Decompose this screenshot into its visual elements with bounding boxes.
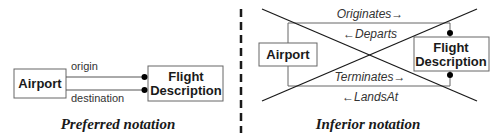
destination-role-label: destination xyxy=(71,92,124,104)
flight-description-label-line1: Flight xyxy=(433,40,469,55)
origin-role-label: origin xyxy=(71,60,98,72)
originates-verb-label: Originates→ xyxy=(337,7,404,21)
airport-entity-label: Airport xyxy=(18,76,62,91)
flight-description-label-line1: Flight xyxy=(168,69,204,84)
departs-verb-label: ←Departs xyxy=(343,27,397,41)
preferred-notation-panel: Airport Flight Description origin destin… xyxy=(14,60,223,132)
top-many-dot-icon xyxy=(447,30,453,36)
destination-many-dot-icon xyxy=(142,87,148,93)
origin-many-dot-icon xyxy=(142,74,148,80)
inferior-notation-panel: Airport Flight Description Originates→ ←… xyxy=(259,7,489,132)
flight-description-label-line2: Description xyxy=(415,54,487,69)
inferior-notation-caption: Inferior notation xyxy=(315,116,421,132)
preferred-notation-caption: Preferred notation xyxy=(61,116,176,132)
bottom-many-dot-icon xyxy=(447,72,453,78)
landsat-verb-label: ←LandsAt xyxy=(342,90,399,104)
notation-comparison-diagram: Airport Flight Description origin destin… xyxy=(0,0,503,140)
flight-description-label-line2: Description xyxy=(150,83,222,98)
terminates-verb-label: Terminates→ xyxy=(335,70,406,84)
airport-entity-label: Airport xyxy=(266,47,310,62)
